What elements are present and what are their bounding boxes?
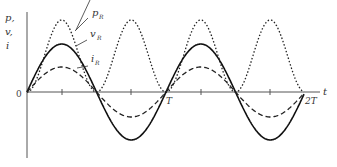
svg-text:R: R <box>98 13 104 20</box>
label-i-r: i R <box>91 53 100 66</box>
label-p-r: p R <box>92 7 104 20</box>
y-label-v: v, <box>5 26 13 37</box>
svg-text:p: p <box>92 7 99 18</box>
svg-text:i: i <box>91 53 94 64</box>
svg-text:v: v <box>90 28 96 39</box>
p-r-curve <box>27 20 304 92</box>
origin-label: 0 <box>16 89 22 99</box>
y-label-i: i <box>6 40 9 51</box>
waveform-diagram: p, v, i 0 t T 2T p R v R i R <box>0 0 337 167</box>
label-v-r: v R <box>90 28 102 41</box>
x-axis-label: t <box>323 86 328 97</box>
tick-label-2t: 2T <box>304 96 318 106</box>
svg-text:R: R <box>94 59 100 66</box>
label-leaders <box>75 0 90 68</box>
y-label-p: p, <box>5 12 15 23</box>
svg-text:R: R <box>96 34 102 41</box>
tick-label-t: T <box>166 96 173 106</box>
